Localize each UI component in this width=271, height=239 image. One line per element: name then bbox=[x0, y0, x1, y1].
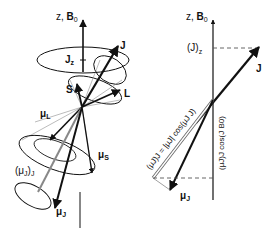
s-precession-ellipse bbox=[65, 70, 125, 110]
projection-formula-z: (μJ)J cos(J B0) bbox=[217, 116, 226, 170]
mu-j-vector bbox=[55, 107, 82, 208]
z-b0-label-left: z, B0 bbox=[56, 11, 78, 23]
mu-s-label: μS bbox=[98, 149, 109, 161]
z-b0-label-right: z, B0 bbox=[186, 11, 208, 23]
mu-s-vector bbox=[82, 107, 92, 173]
jz-label: Jz bbox=[65, 54, 75, 66]
perpendicular-line bbox=[153, 178, 170, 190]
projection-formula-j: (μJ)J = |μJ| cos(μJ J) bbox=[144, 107, 197, 172]
mu-j-projection-vector bbox=[38, 107, 82, 192]
l-label: L bbox=[124, 88, 130, 99]
mu-j-projection-label: (μJ)J bbox=[15, 165, 34, 177]
j-label-right: J bbox=[256, 63, 262, 74]
left-precession-diagram: z, B0 Jz J L S μL μS (μJ)J μJ bbox=[11, 11, 132, 228]
mu-l-label: μL bbox=[40, 108, 51, 120]
right-projection-diagram: z, B0 (J)z J μJ (μJ)J = |μJ| cos(μJ J) (… bbox=[144, 11, 261, 202]
mu-j-label-right: μJ bbox=[180, 190, 190, 202]
mu-j-label-left: μJ bbox=[56, 206, 66, 218]
s-label: S bbox=[66, 84, 73, 95]
vector-model-diagram: z, B0 Jz J L S μL μS (μJ)J μJ z, B0 (J)z… bbox=[0, 0, 271, 239]
mu-j-precession-ellipse bbox=[11, 177, 56, 214]
j-label-left: J bbox=[120, 40, 126, 51]
jz-label-right: (J)z bbox=[187, 42, 203, 55]
